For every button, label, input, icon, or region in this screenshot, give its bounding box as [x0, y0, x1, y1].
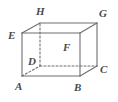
edge-FG [80, 23, 97, 33]
vertex-label-b: B [74, 82, 81, 93]
edge-AD [22, 66, 40, 76]
edge-BC [80, 66, 97, 76]
vertex-label-g: G [99, 8, 107, 19]
vertex-label-c: C [100, 64, 107, 75]
vertex-label-e: E [8, 30, 15, 41]
hidden-edges-group [22, 23, 97, 76]
cuboid-diagram: ABCDEFGH [0, 0, 118, 102]
vertex-label-a: A [15, 81, 22, 92]
edge-EH [22, 23, 40, 33]
visible-edges-group [22, 23, 97, 76]
vertex-label-h: H [36, 6, 45, 17]
vertex-label-f: F [63, 42, 70, 53]
vertex-label-d: D [28, 56, 36, 67]
